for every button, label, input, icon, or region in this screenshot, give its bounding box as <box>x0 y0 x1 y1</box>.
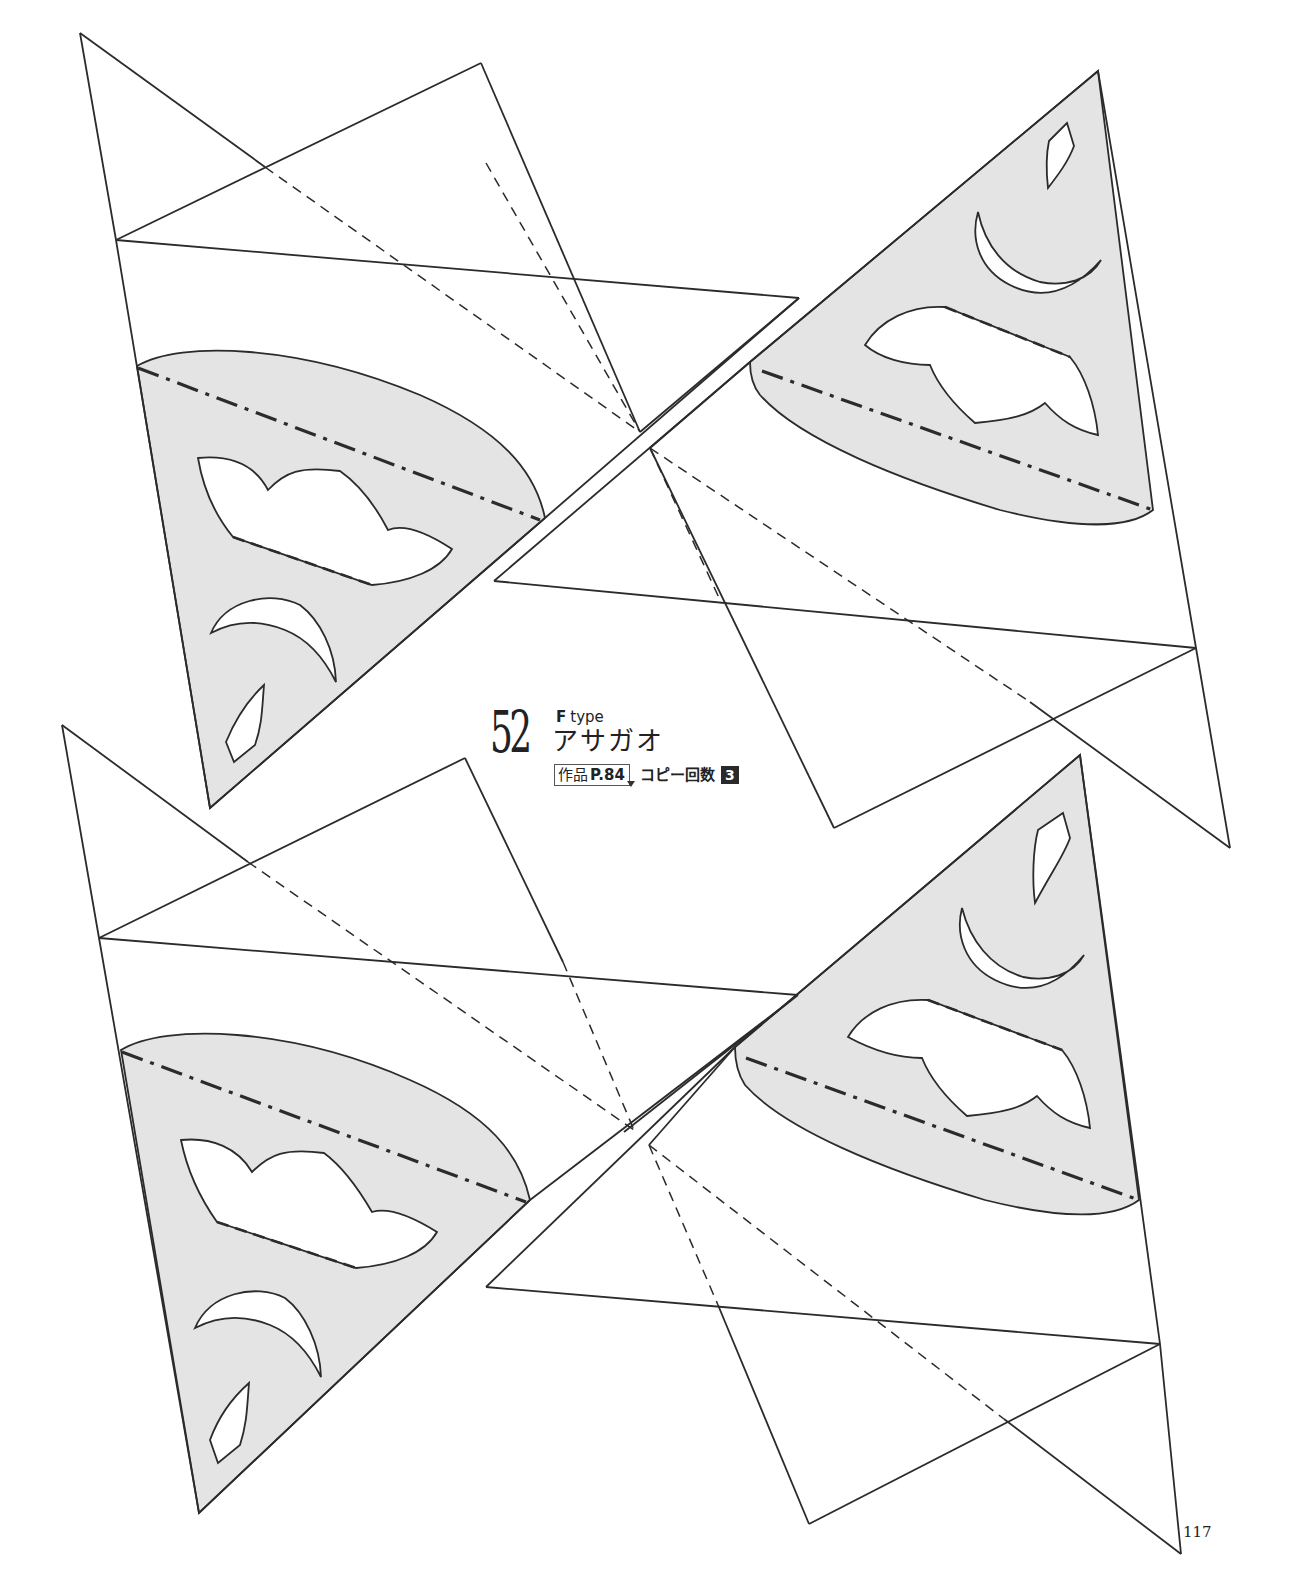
pattern-title: アサガオ <box>552 725 664 757</box>
copy-count-label: コピー回数 <box>640 765 715 785</box>
page-number: 117 <box>1182 1523 1213 1541</box>
type-word: type <box>570 708 604 726</box>
work-reference: 作品 P.84 <box>554 764 630 786</box>
work-ref-prefix: 作品 <box>558 765 588 785</box>
template-lower-left <box>62 725 798 1513</box>
pattern-number: 52 <box>490 702 528 762</box>
lower-template-pair <box>62 725 1181 1554</box>
pattern-meta: 作品 P.84 コピー回数 3 <box>554 764 739 786</box>
type-letter: F <box>556 708 566 726</box>
triangle-pointer-icon <box>627 781 635 787</box>
work-ref-page: P.84 <box>590 765 625 785</box>
shaded-fold-region <box>750 71 1153 524</box>
pattern-label: 52 Ftype アサガオ 作品 P.84 コピー回数 3 <box>490 700 790 810</box>
copy-count-badge: 3 <box>721 766 739 784</box>
pattern-type: Ftype <box>556 708 604 726</box>
template-upper-left <box>80 33 799 808</box>
